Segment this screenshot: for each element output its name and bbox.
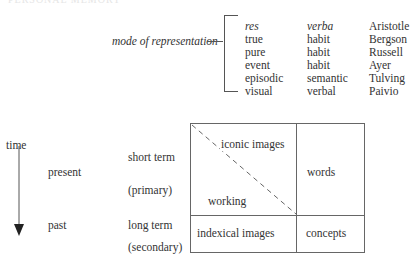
present-label: present — [48, 166, 81, 179]
concepts-cell: concepts — [306, 227, 346, 240]
arrow-down-icon — [14, 224, 24, 236]
iconic-images-cell: iconic images — [220, 138, 286, 151]
working-cell: working — [208, 195, 246, 208]
indexical-images-cell: indexical images — [197, 227, 275, 240]
long-term-label: long term — [128, 219, 172, 232]
primary-label: (primary) — [128, 184, 172, 197]
past-label: past — [48, 219, 67, 232]
words-cell: words — [307, 166, 335, 179]
secondary-label: (secondary) — [128, 241, 182, 254]
short-term-label: short term — [128, 151, 175, 164]
